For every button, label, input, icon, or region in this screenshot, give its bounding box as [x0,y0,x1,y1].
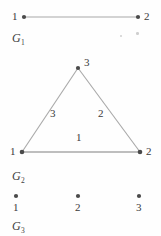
graph-name-g3-letter: G [12,219,21,233]
scan-speck [120,35,122,37]
vertex-g1-2 [136,15,140,19]
vertex-g2-3 [76,66,80,70]
vertex-g2-2 [138,150,143,155]
graph-name-g3: G3 [12,220,24,232]
graph-name-g1: G1 [12,32,24,44]
vertex-g2-1 [20,150,25,155]
vertex-label-g3-2: 2 [75,202,81,213]
edge-g2-3-2 [78,68,140,152]
vertex-g3-3 [137,194,141,198]
graph-name-g2-letter: G [12,169,21,183]
vertex-label-g2-2: 2 [146,146,152,157]
edge-label-g2-1-2: 1 [76,132,82,143]
vertex-g1-1 [22,15,26,19]
edge-label-g2-3-2: 2 [98,108,104,119]
vertex-g3-2 [76,194,80,198]
edge-label-g2-1-3: 3 [50,108,56,119]
vertex-label-g3-1: 1 [13,202,19,213]
vertex-g3-1 [14,194,18,198]
graph-figure: 1 2 G1 3 1 2 3 2 1 G2 1 2 3 G3 [0,0,161,236]
vertex-label-g2-1: 1 [10,146,16,157]
vertex-label-g1-2: 2 [144,11,150,22]
vertex-label-g2-3: 3 [84,57,90,68]
graph-name-g2: G2 [12,170,24,182]
graph-name-g1-subscript: 1 [21,38,25,47]
graph-name-g3-subscript: 3 [21,226,25,235]
graph-name-g1-letter: G [12,31,21,45]
vertex-label-g1-1: 1 [12,11,18,22]
graph-name-g2-subscript: 2 [21,176,25,185]
scan-speck [136,32,139,35]
vertex-label-g3-3: 3 [136,202,142,213]
